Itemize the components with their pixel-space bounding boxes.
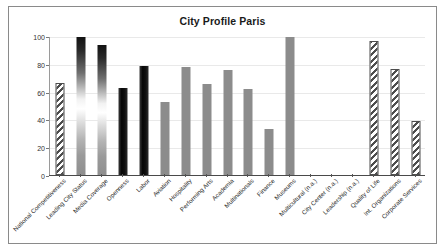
bar[interactable]: [265, 129, 274, 175]
x-tick-mark: [101, 174, 102, 177]
bar-slot: [196, 37, 217, 175]
bar[interactable]: [160, 102, 169, 175]
x-tick-mark: [227, 174, 228, 177]
bar[interactable]: [244, 89, 253, 175]
bar-slot: [154, 37, 175, 175]
x-tick-mark: [373, 174, 374, 177]
y-tick-label: 0: [41, 173, 45, 180]
x-tick-mark: [289, 174, 290, 177]
bar-slot: [92, 37, 113, 175]
bar[interactable]: [411, 121, 420, 175]
x-tick-mark: [185, 174, 186, 177]
y-tick-label: 80: [37, 61, 45, 68]
bar[interactable]: [202, 84, 211, 175]
x-tick-label: Int. Organizations: [362, 177, 402, 217]
x-tick-mark: [206, 174, 207, 177]
bar-series: [50, 37, 425, 175]
y-tick-mark: [46, 65, 49, 66]
bar[interactable]: [369, 41, 378, 175]
bar-slot: [238, 37, 259, 175]
y-tick-mark: [46, 148, 49, 149]
bar-slot: [259, 37, 280, 175]
x-tick-mark: [164, 174, 165, 177]
bar[interactable]: [139, 66, 148, 175]
bar-slot: [134, 37, 155, 175]
bar[interactable]: [77, 37, 86, 175]
y-tick-label: 100: [33, 34, 45, 41]
bar-slot: [217, 37, 238, 175]
x-tick-mark: [352, 174, 353, 177]
y-tick-mark: [46, 120, 49, 121]
bar-slot: [301, 37, 322, 175]
bar-slot: [384, 37, 405, 175]
x-tick-mark: [331, 174, 332, 177]
x-tick-mark: [122, 174, 123, 177]
x-axis-line: [49, 175, 425, 176]
bar-slot: [113, 37, 134, 175]
x-axis-labels: National CompetitivenessLeading City Sta…: [49, 177, 425, 247]
bar[interactable]: [181, 67, 190, 175]
plot-area: 020406080100: [49, 37, 425, 176]
y-tick-mark: [46, 37, 49, 38]
bar-slot: [280, 37, 301, 175]
bar-slot: [405, 37, 426, 175]
bar[interactable]: [390, 69, 399, 175]
bar-slot: [71, 37, 92, 175]
x-tick-label: Corporate Services: [379, 177, 422, 220]
chart-title: City Profile Paris: [9, 15, 436, 27]
bar[interactable]: [56, 83, 65, 175]
bar-slot: [50, 37, 71, 175]
bar[interactable]: [286, 37, 295, 175]
x-tick-mark: [247, 174, 248, 177]
bar-slot: [363, 37, 384, 175]
x-tick-mark: [143, 174, 144, 177]
bar[interactable]: [98, 45, 107, 175]
x-tick-label: Labor: [135, 177, 151, 193]
y-tick-label: 60: [37, 89, 45, 96]
bar-slot: [175, 37, 196, 175]
bar[interactable]: [119, 88, 128, 175]
x-tick-mark: [80, 174, 81, 177]
y-tick-label: 20: [37, 145, 45, 152]
chart-figure: City Profile Paris 020406080100 National…: [8, 6, 437, 244]
bar-slot: [342, 37, 363, 175]
bar[interactable]: [223, 70, 232, 175]
x-tick-mark: [394, 174, 395, 177]
y-tick-mark: [46, 93, 49, 94]
x-tick-mark: [415, 174, 416, 177]
y-tick-label: 40: [37, 117, 45, 124]
x-tick-mark: [59, 174, 60, 177]
bar-slot: [322, 37, 343, 175]
x-tick-mark: [268, 174, 269, 177]
x-tick-mark: [310, 174, 311, 177]
